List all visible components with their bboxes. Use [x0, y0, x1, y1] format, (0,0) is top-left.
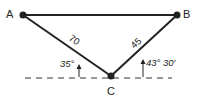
- point-c-dot: [108, 73, 115, 80]
- angle-left-arrowhead-icon: [77, 64, 82, 69]
- length-ac-label: 70: [67, 32, 82, 47]
- point-a-dot: [20, 12, 27, 19]
- angle-right-label: 43° 30′: [146, 57, 177, 68]
- angle-left-label: 35°: [60, 58, 75, 69]
- triangle-diagram: A B C 70 45 35° 43° 30′: [0, 0, 198, 106]
- angle-right-arrowhead-icon: [141, 59, 146, 64]
- point-b-label: B: [183, 8, 190, 20]
- point-a-label: A: [6, 8, 14, 20]
- point-b-dot: [174, 12, 181, 19]
- point-c-label: C: [107, 85, 115, 97]
